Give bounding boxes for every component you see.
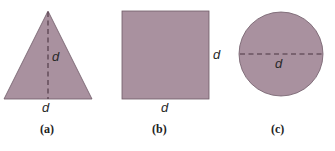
- circle-diameter-label: d: [275, 56, 283, 71]
- panel-b-square: d d (b): [122, 11, 221, 136]
- square-shape: [122, 11, 209, 99]
- panel-c-caption: (c): [271, 122, 284, 136]
- panel-c-circle: d (c): [239, 12, 323, 136]
- shapes-figure: d d (a) d d (b) d (c): [0, 0, 335, 151]
- square-base-label: d: [161, 100, 169, 115]
- square-side-label: d: [213, 47, 221, 62]
- triangle-base-label: d: [42, 100, 50, 115]
- triangle-height-label: d: [52, 49, 60, 64]
- panel-a-triangle: d d (a): [4, 11, 92, 136]
- panel-b-caption: (b): [152, 122, 167, 136]
- panel-a-caption: (a): [40, 122, 54, 136]
